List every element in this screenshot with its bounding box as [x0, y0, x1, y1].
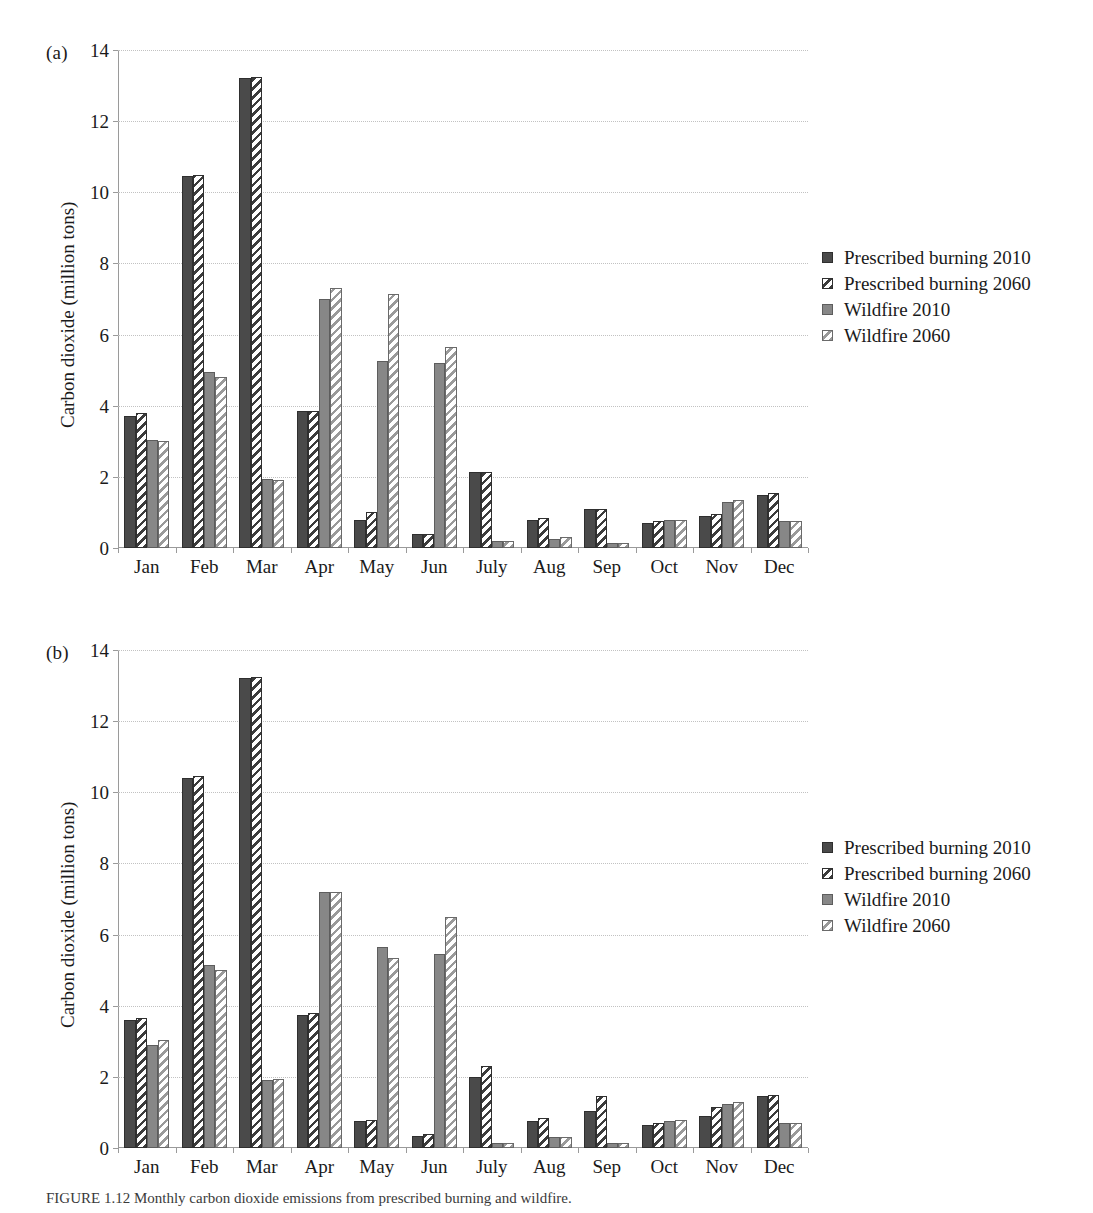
- bar: [377, 947, 388, 1148]
- legend-item[interactable]: Wildfire 2010: [822, 886, 1031, 912]
- legend-item[interactable]: Prescribed burning 2010: [822, 834, 1031, 860]
- x-tick-label-july: July: [476, 557, 508, 576]
- x-tick-label-sep: Sep: [593, 1157, 622, 1176]
- bar: [653, 521, 664, 548]
- bar: [136, 413, 147, 548]
- bar: [538, 518, 549, 548]
- x-tick-mark: [406, 548, 407, 553]
- legend-swatch-icon: [822, 278, 833, 289]
- y-tick-mark: [113, 335, 118, 336]
- x-tick-label-may: May: [359, 557, 394, 576]
- x-tick-label-feb: Feb: [190, 1157, 219, 1176]
- bar: [445, 917, 456, 1148]
- legend-swatch-icon: [822, 842, 833, 853]
- bar: [722, 502, 733, 548]
- gridline: [118, 192, 808, 193]
- bar: [584, 509, 595, 548]
- bar: [503, 1143, 514, 1148]
- bar: [423, 534, 434, 548]
- y-tick-mark: [113, 721, 118, 722]
- gridline: [118, 335, 808, 336]
- bar: [136, 1018, 147, 1148]
- x-tick-label-jun: Jun: [421, 557, 447, 576]
- bar: [607, 543, 618, 548]
- panel-label-a: (a): [46, 42, 68, 64]
- x-tick-mark: [291, 1148, 292, 1153]
- y-tick-mark: [113, 1006, 118, 1007]
- y-tick-label: 6: [100, 325, 110, 344]
- x-tick-label-oct: Oct: [651, 1157, 678, 1176]
- bar: [560, 1137, 571, 1148]
- bar: [503, 541, 514, 548]
- y-tick-mark: [113, 792, 118, 793]
- legend-swatch-icon: [822, 304, 833, 315]
- chart-panel-b: (b) Carbon dioxide (million tons) 024681…: [0, 600, 1093, 1200]
- bar: [412, 1136, 423, 1148]
- x-tick-mark: [578, 1148, 579, 1153]
- legend-item[interactable]: Prescribed burning 2060: [822, 270, 1031, 296]
- bar: [699, 1116, 710, 1148]
- bar: [308, 1013, 319, 1148]
- y-tick-label: 12: [90, 112, 109, 131]
- bar: [699, 516, 710, 548]
- x-tick-mark: [348, 548, 349, 553]
- figure-caption: FIGURE 1.12 Monthly carbon dioxide emiss…: [46, 1188, 1066, 1210]
- x-tick-mark: [693, 548, 694, 553]
- x-tick-mark: [291, 548, 292, 553]
- bar: [251, 77, 262, 548]
- bar: [733, 1102, 744, 1148]
- legend-b: Prescribed burning 2010Prescribed burnin…: [822, 834, 1031, 938]
- x-tick-label-dec: Dec: [764, 557, 795, 576]
- y-tick-label: 2: [100, 467, 110, 486]
- x-tick-mark: [693, 1148, 694, 1153]
- bar: [711, 514, 722, 548]
- bar: [124, 1020, 135, 1148]
- bar: [560, 537, 571, 548]
- legend-item[interactable]: Wildfire 2010: [822, 296, 1031, 322]
- bar: [193, 776, 204, 1148]
- legend-label: Wildfire 2010: [844, 890, 950, 909]
- x-tick-mark: [348, 1148, 349, 1153]
- bar: [779, 1123, 790, 1148]
- bar: [790, 1123, 801, 1148]
- bar: [124, 416, 135, 548]
- bar: [434, 363, 445, 548]
- bar: [388, 958, 399, 1148]
- bar: [664, 520, 675, 548]
- gridline: [118, 263, 808, 264]
- bar: [642, 523, 653, 548]
- y-tick-label: 0: [100, 539, 110, 558]
- x-tick-label-apr: Apr: [304, 1157, 334, 1176]
- bar: [722, 1104, 733, 1148]
- legend-swatch-icon: [822, 868, 833, 879]
- bar: [469, 1077, 480, 1148]
- bar: [527, 520, 538, 548]
- bar: [147, 1045, 158, 1148]
- chart-panel-a: (a) Carbon dioxide (million tons) 024681…: [0, 0, 1093, 600]
- legend-label: Prescribed burning 2010: [844, 838, 1031, 857]
- legend-item[interactable]: Wildfire 2060: [822, 912, 1031, 938]
- legend-label: Prescribed burning 2060: [844, 864, 1031, 883]
- bar: [377, 361, 388, 548]
- y-tick-mark: [113, 50, 118, 51]
- y-tick-label: 6: [100, 925, 110, 944]
- legend-item[interactable]: Wildfire 2060: [822, 322, 1031, 348]
- y-tick-label: 12: [90, 712, 109, 731]
- x-tick-label-jan: Jan: [134, 1157, 159, 1176]
- x-tick-label-oct: Oct: [651, 557, 678, 576]
- legend-item[interactable]: Prescribed burning 2010: [822, 244, 1031, 270]
- bar: [607, 1143, 618, 1148]
- gridline: [118, 650, 808, 651]
- bar: [434, 954, 445, 1148]
- x-tick-mark: [521, 1148, 522, 1153]
- bar: [596, 509, 607, 548]
- bar: [147, 440, 158, 548]
- bar: [308, 411, 319, 548]
- bar: [757, 495, 768, 548]
- panel-label-b: (b): [46, 642, 69, 664]
- x-tick-mark: [808, 1148, 809, 1153]
- legend-item[interactable]: Prescribed burning 2060: [822, 860, 1031, 886]
- bar: [319, 892, 330, 1148]
- bar: [584, 1111, 595, 1148]
- x-tick-mark: [521, 548, 522, 553]
